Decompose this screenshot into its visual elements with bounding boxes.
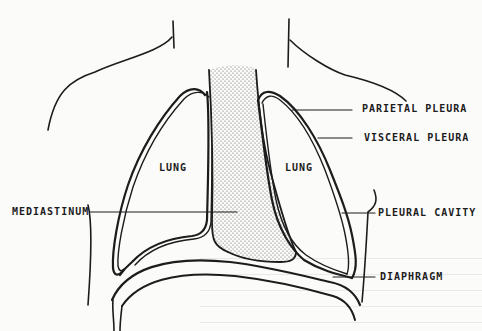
left-neck-line	[173, 21, 174, 48]
right-body-wall	[362, 190, 376, 302]
label-lung-left: LUNG	[159, 163, 187, 173]
left-body-wall	[88, 205, 91, 305]
anatomy-diagram: PARIETAL PLEURA VISCERAL PLEURA LUNG LUN…	[0, 0, 482, 331]
diaphragm-upper	[112, 260, 360, 305]
diaphragm-left-end	[113, 300, 114, 331]
label-parietal-pleura: PARIETAL PLEURA	[362, 104, 467, 114]
left-lung-visceral	[118, 92, 209, 270]
label-mediastinum: MEDIASTINUM	[12, 207, 89, 217]
label-lung-right: LUNG	[285, 163, 313, 173]
right-neck-line	[288, 19, 289, 67]
left-shoulder-line	[48, 37, 172, 130]
label-visceral-pleura: VISCERAL PLEURA	[364, 133, 469, 143]
label-pleural-cavity: PLEURAL CAVITY	[378, 208, 476, 218]
left-lung-parietal	[113, 89, 205, 275]
label-diaphragm: DIAPHRAGM	[380, 272, 443, 282]
left-lung-inner-wall	[120, 92, 209, 275]
right-shoulder-line	[290, 40, 406, 101]
diaphragm-left-end-2	[120, 306, 122, 331]
diaphragm-lower	[122, 274, 355, 320]
